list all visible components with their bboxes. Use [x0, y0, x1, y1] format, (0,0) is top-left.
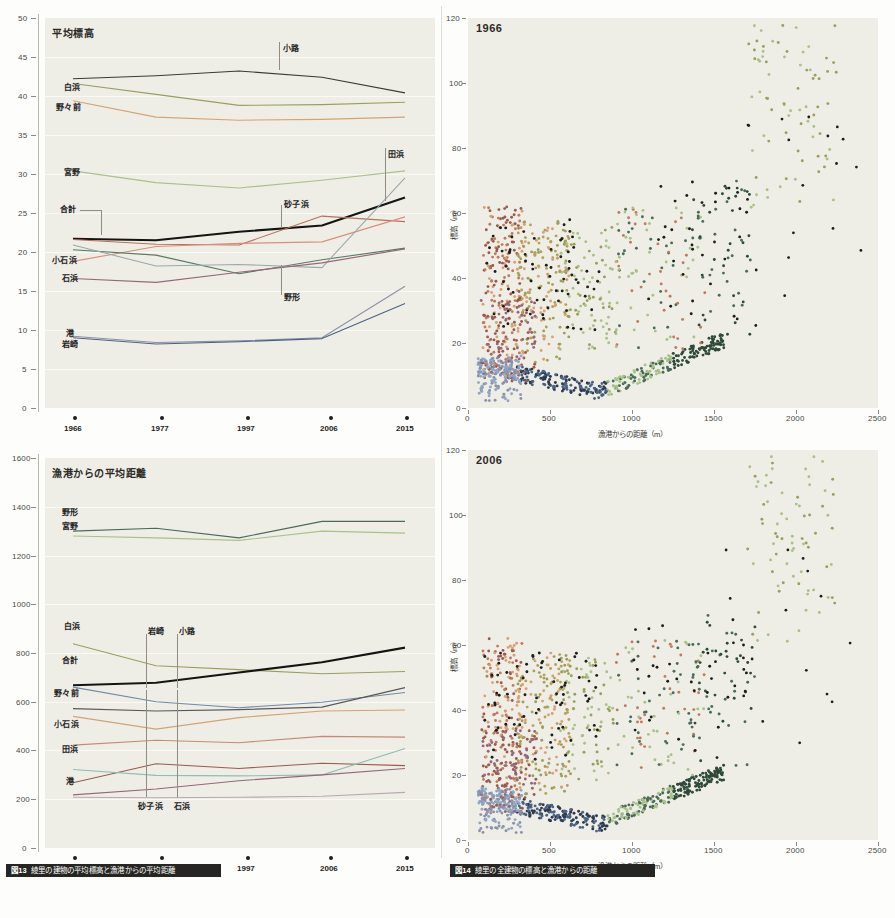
scatter-point	[683, 356, 686, 359]
scatter-point	[798, 200, 801, 203]
scatter-point	[551, 258, 554, 261]
scatter-point	[538, 266, 541, 269]
scatter-point	[497, 794, 500, 797]
scatter-point	[771, 467, 774, 470]
scatter-point	[691, 300, 694, 303]
scatter-point	[515, 355, 518, 358]
scatter-point	[553, 655, 556, 658]
scatter-point	[533, 331, 536, 334]
scatter-point	[807, 546, 810, 549]
series-line-岩崎	[73, 304, 405, 345]
scatter-point	[567, 275, 570, 278]
scatter-point	[711, 649, 714, 652]
scatter-point	[726, 696, 729, 699]
scatter-point	[733, 697, 736, 700]
scatter-point	[818, 611, 821, 614]
scatter-point	[602, 325, 605, 328]
scatter-point	[826, 70, 829, 73]
scatter-point	[771, 462, 774, 465]
scatter-point	[661, 362, 664, 365]
scatter-point	[494, 399, 497, 402]
x-tick-label: 2015	[396, 424, 414, 433]
scatter-point	[607, 818, 610, 821]
scatter-point	[535, 712, 538, 715]
scatter-point	[710, 268, 713, 271]
scatter-point	[609, 267, 612, 270]
scatter-point	[680, 748, 683, 751]
scatter-point	[519, 795, 522, 798]
scatter-point	[508, 716, 511, 719]
scatter-point	[499, 671, 502, 674]
scatter-point	[539, 693, 542, 696]
scatter-point	[667, 251, 670, 254]
scatter-point	[534, 763, 537, 766]
scatter-point	[496, 731, 499, 734]
scatter-point	[519, 257, 522, 260]
scatter-point	[519, 729, 522, 732]
scatter-point	[534, 767, 537, 770]
scatter-point	[637, 731, 640, 734]
scatter-point	[539, 377, 542, 380]
scatter-point	[826, 102, 829, 105]
scatter-point	[565, 375, 568, 378]
scatter-point	[572, 743, 575, 746]
scatter-point	[722, 346, 725, 349]
scatter-point	[559, 681, 562, 684]
scatter-point	[524, 721, 527, 724]
scatter-point	[697, 643, 700, 646]
scatter-point	[582, 278, 585, 281]
scatter-point	[500, 288, 503, 291]
scatter-point	[526, 321, 529, 324]
scatter-point	[745, 671, 748, 674]
scatter-point	[581, 826, 584, 829]
scatter-point	[615, 821, 618, 824]
scatter-point	[585, 823, 588, 826]
scatter-point	[697, 783, 700, 786]
scatter-point	[488, 394, 491, 397]
x-tick-label: 1966	[64, 424, 82, 433]
scatter-point	[565, 386, 568, 389]
scatter-point	[513, 213, 516, 216]
scatter-point	[536, 372, 539, 375]
scatter-point	[707, 352, 710, 355]
scatter-point	[525, 311, 528, 314]
scatter-point	[660, 301, 663, 304]
scatter-point	[765, 60, 768, 63]
scatter-point	[632, 801, 635, 804]
scatter-point	[616, 653, 619, 656]
scatter-point	[576, 232, 579, 235]
scatter-point	[562, 746, 565, 749]
scatter-point	[643, 692, 646, 695]
scatter-point	[551, 305, 554, 308]
scatter-point	[647, 627, 650, 630]
scatter-point	[767, 140, 770, 143]
scatter-point	[510, 827, 513, 830]
scatter-point	[513, 305, 516, 308]
scatter-point	[529, 297, 532, 300]
scatter-point	[628, 222, 631, 225]
scatter-point	[524, 693, 527, 696]
scatter-point	[537, 251, 540, 254]
scatter-point	[502, 649, 505, 652]
scatter-point	[697, 779, 700, 782]
scatter-point	[549, 741, 552, 744]
scatter-point	[591, 827, 594, 830]
scatter-point	[497, 821, 500, 824]
scatter-point	[700, 782, 703, 785]
scatter-point	[625, 816, 628, 819]
scatter-point	[506, 751, 509, 754]
scatter-point	[651, 805, 654, 808]
scatter-point	[520, 766, 523, 769]
scatter-point	[714, 650, 717, 653]
scatter-point	[518, 679, 521, 682]
scatter-point	[755, 485, 758, 488]
scatter-point	[568, 696, 571, 699]
scatter-point	[563, 809, 566, 812]
scatter-point	[496, 784, 499, 787]
scatter-point	[522, 245, 525, 248]
scatter-point	[583, 751, 586, 754]
scatter-point	[557, 265, 560, 268]
scatter-point	[518, 274, 521, 277]
scatter-point	[520, 789, 523, 792]
scatter-point	[626, 386, 629, 389]
